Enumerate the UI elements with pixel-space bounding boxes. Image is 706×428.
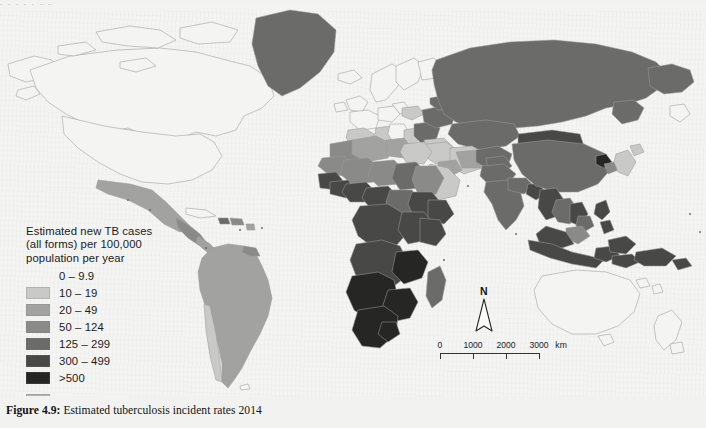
figure-container: p y p p p g g .b0{fill:#f4f4f3;} .b1{fil… [0, 0, 706, 428]
legend-label-6: >500 [59, 372, 85, 384]
north-arrow-icon [466, 298, 502, 334]
scale-tick-3 [539, 353, 540, 359]
legend-title: Estimated new TB cases (all forms) per 1… [26, 225, 206, 265]
map-scale-bar: 0 1000 2000 3000 km [437, 340, 555, 360]
region-africa [318, 136, 454, 348]
legend-label-not-applicable: Not applicable [59, 394, 132, 396]
scale-labels: 0 1000 2000 3000 km [437, 340, 555, 352]
legend-swatch-2 [26, 304, 50, 317]
scale-bar-line [440, 353, 540, 354]
legend-row-5[interactable]: 300 – 499 [26, 353, 206, 369]
scale-line [437, 353, 555, 360]
legend-label-0: 0 – 9.9 [59, 270, 94, 282]
legend-row-3[interactable]: 50 – 124 [26, 319, 206, 335]
map-legend: Estimated new TB cases (all forms) per 1… [26, 225, 206, 396]
region-southeast-asia [528, 188, 692, 270]
map-plate: p y p p p g g .b0{fill:#f4f4f3;} .b1{fil… [0, 4, 706, 396]
compass-north-label: N [466, 285, 502, 297]
legend-swatch-1 [26, 287, 50, 300]
legend-label-2: 20 – 49 [59, 304, 97, 316]
legend-class-list: 0 – 9.9 10 – 19 20 – 49 50 – 124 125 – 2… [26, 268, 206, 396]
scale-tick-1 [473, 353, 474, 359]
scale-unit-label: km [555, 340, 566, 350]
scale-tick-label-0: 0 [438, 340, 443, 350]
scale-tick-2 [506, 353, 507, 359]
scale-tick-label-3: 3000 [529, 340, 548, 350]
scale-tick-0 [440, 353, 441, 359]
scale-tick-label-2: 2000 [496, 340, 515, 350]
legend-swatch-not-applicable [26, 394, 50, 396]
legend-row-4[interactable]: 125 – 299 [26, 336, 206, 352]
legend-row-6[interactable]: >500 [26, 370, 206, 386]
figure-caption-label: Figure 4.9: [6, 404, 60, 417]
compass-rose: N [466, 285, 502, 335]
region-north-asia [432, 40, 694, 154]
scale-tick-label-1: 1000 [463, 340, 482, 350]
legend-swatch-6 [26, 372, 50, 385]
figure-caption-text: Estimated tuberculosis incident rates 20… [60, 404, 261, 417]
figure-caption: Figure 4.9: Estimated tuberculosis incid… [6, 404, 696, 417]
legend-row-2[interactable]: 20 – 49 [26, 302, 206, 318]
legend-swatch-0 [26, 270, 50, 283]
region-south-america [198, 244, 272, 390]
legend-row-not-applicable[interactable]: Not applicable [26, 392, 206, 396]
legend-swatch-5 [26, 355, 50, 368]
legend-row-1[interactable]: 10 – 19 [26, 285, 206, 301]
legend-label-1: 10 – 19 [59, 287, 97, 299]
legend-label-3: 50 – 124 [59, 321, 104, 333]
region-north-america [8, 10, 362, 256]
legend-swatch-3 [26, 321, 50, 334]
legend-swatch-4 [26, 338, 50, 351]
legend-label-5: 300 – 499 [59, 355, 110, 367]
legend-row-0[interactable]: 0 – 9.9 [26, 268, 206, 284]
legend-label-4: 125 – 299 [59, 338, 110, 350]
